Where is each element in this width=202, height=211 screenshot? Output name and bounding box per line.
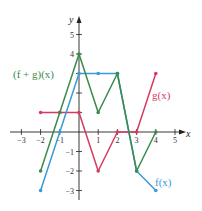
f-series-label: f(x) (155, 176, 172, 189)
x-tick-label: −3 (17, 136, 26, 145)
data-point (77, 52, 81, 56)
y-tick-label: −3 (65, 187, 74, 196)
series-line-1 (41, 74, 156, 172)
data-point (77, 111, 81, 115)
data-point (39, 189, 43, 193)
x-tick-label: 3 (135, 136, 139, 145)
series-group (39, 52, 158, 192)
x-tick-label: 4 (154, 136, 158, 145)
data-point (154, 130, 158, 134)
data-point (96, 111, 100, 115)
data-point (58, 130, 62, 134)
data-point (135, 169, 139, 173)
y-tick-label: −2 (65, 167, 74, 176)
y-axis-arrow-icon (77, 16, 82, 23)
x-tick-label: 2 (115, 136, 119, 145)
data-point (116, 72, 120, 76)
data-point (58, 111, 62, 115)
data-point (154, 72, 158, 76)
y-axis-label: y (68, 14, 74, 25)
y-tick-label: 4 (70, 50, 74, 59)
g-series-label: g(x) (152, 89, 171, 102)
chart-canvas: −3−2−11234554−1−2−3 x y (f + g)(x) g(x) … (0, 0, 202, 211)
x-axis-label: x (185, 128, 191, 139)
y-tick-label: 5 (70, 31, 74, 40)
x-tick-label: 5 (173, 136, 177, 145)
data-point (116, 130, 120, 134)
data-point (77, 72, 81, 76)
y-tick-label: −1 (65, 148, 74, 157)
data-point (135, 130, 139, 134)
x-tick-label: −2 (36, 136, 45, 145)
data-point (39, 111, 43, 115)
data-point (96, 169, 100, 173)
x-tick-label: 1 (96, 136, 100, 145)
data-point (96, 72, 100, 76)
x-axis-arrow-icon (179, 130, 186, 135)
data-point (39, 169, 43, 173)
fg-series-label: (f + g)(x) (13, 68, 54, 81)
data-point (154, 189, 158, 193)
